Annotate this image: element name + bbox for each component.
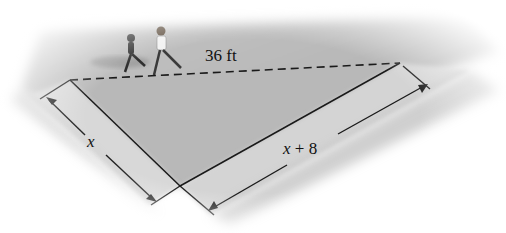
- long-leg-operator: +: [295, 139, 305, 158]
- vignette-overlay: [0, 0, 506, 233]
- triangle-figure: 36 ft x x + 8: [0, 0, 506, 233]
- long-leg-variable: x: [283, 139, 291, 158]
- figure-graphic: [0, 0, 506, 233]
- long-leg-constant: 8: [309, 139, 318, 158]
- short-leg-label: x: [87, 133, 95, 150]
- long-leg-label: x + 8: [283, 140, 317, 157]
- hypotenuse-label: 36 ft: [205, 47, 237, 64]
